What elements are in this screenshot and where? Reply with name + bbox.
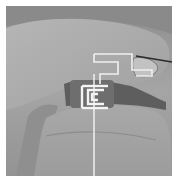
photo-scene [6,6,172,176]
image-frame [0,0,176,181]
photograph [6,6,172,176]
thumb [34,105,172,176]
